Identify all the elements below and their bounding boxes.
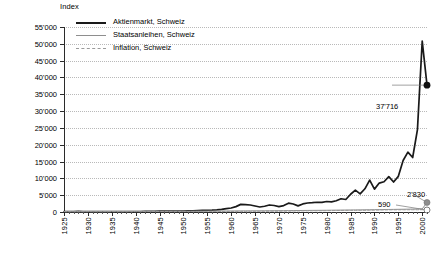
x-tick-label: 1980 <box>323 217 332 235</box>
x-tick-label: 1925 <box>60 217 69 235</box>
x-tick-mark-minor <box>308 212 309 214</box>
x-tick-mark-minor <box>394 212 395 214</box>
x-tick-mark-minor <box>126 212 127 214</box>
x-tick-mark-minor <box>298 212 299 214</box>
legend-label-aktienmarkt: Aktienmarkt, Schweiz <box>113 17 185 26</box>
legend-swatch-inflation <box>76 43 106 52</box>
x-tick-label: 1985 <box>347 217 356 235</box>
x-tick-label: 1990 <box>370 217 379 235</box>
end-marker-aktienmarkt <box>424 82 431 89</box>
x-tick-mark-minor <box>260 212 261 214</box>
x-tick-label: 1930 <box>84 217 93 235</box>
x-tick-mark-minor <box>365 212 366 214</box>
y-tick-mark <box>60 77 64 78</box>
x-tick-mark-minor <box>236 212 237 214</box>
x-tick-mark-minor <box>355 212 356 214</box>
x-tick-mark-minor <box>427 212 428 214</box>
x-tick-mark-minor <box>217 212 218 214</box>
data-label-staatsanleihen: 2'830 <box>407 190 425 199</box>
data-label-aktienmarkt: 37'716 <box>376 102 398 111</box>
x-tick-mark-minor <box>121 212 122 214</box>
x-tick-mark-minor <box>403 212 404 214</box>
x-tick-mark <box>351 212 352 216</box>
legend-swatch-aktienmarkt <box>76 17 106 26</box>
chart-legend: Aktienmarkt, Schweiz Staatsanleihen, Sch… <box>76 15 246 54</box>
legend-label-inflation: Inflation, Schweiz <box>113 43 171 52</box>
x-tick-mark-minor <box>193 212 194 214</box>
x-tick-mark <box>279 212 280 216</box>
x-tick-mark-minor <box>155 212 156 214</box>
x-tick-mark-minor <box>188 212 189 214</box>
y-tick-mark <box>60 162 64 163</box>
x-tick-mark-minor <box>341 212 342 214</box>
legend-item-inflation: Inflation, Schweiz <box>76 41 246 54</box>
x-tick-mark-minor <box>97 212 98 214</box>
x-tick-mark-minor <box>346 212 347 214</box>
x-tick-mark-minor <box>288 212 289 214</box>
x-tick-mark <box>136 212 137 216</box>
x-tick-mark-minor <box>389 212 390 214</box>
x-tick-mark-minor <box>317 212 318 214</box>
y-tick-mark <box>60 145 64 146</box>
x-tick-mark-minor <box>102 212 103 214</box>
legend-label-staatsanleihen: Staatsanleihen, Schweiz <box>113 30 195 39</box>
y-tick-mark <box>60 178 64 179</box>
x-tick-mark <box>374 212 375 216</box>
x-tick-mark-minor <box>107 212 108 214</box>
y-tick-mark <box>60 195 64 196</box>
x-tick-mark-minor <box>226 212 227 214</box>
end-marker-staatsanleihen <box>424 199 430 205</box>
y-tick-mark <box>60 27 64 28</box>
x-tick-mark-minor <box>284 212 285 214</box>
y-tick-mark <box>60 94 64 95</box>
x-tick-mark <box>64 212 65 216</box>
x-tick-mark-minor <box>336 212 337 214</box>
x-tick-label: 1945 <box>156 217 165 235</box>
legend-item-staatsanleihen: Staatsanleihen, Schweiz <box>76 28 246 41</box>
legend-swatch-staatsanleihen <box>76 30 106 39</box>
x-tick-label: 1935 <box>108 217 117 235</box>
x-tick-mark-minor <box>203 212 204 214</box>
x-tick-mark-minor <box>246 212 247 214</box>
x-tick-mark-minor <box>413 212 414 214</box>
x-tick-mark-minor <box>169 212 170 214</box>
x-tick-mark-minor <box>312 212 313 214</box>
x-tick-mark-minor <box>174 212 175 214</box>
chart-container: Index 05'00010'00015'00020'00025'00030'0… <box>0 0 441 253</box>
x-tick-mark-minor <box>74 212 75 214</box>
x-tick-label: 1970 <box>275 217 284 235</box>
x-tick-mark-minor <box>322 212 323 214</box>
x-tick-label: 1960 <box>227 217 236 235</box>
x-tick-label: 1955 <box>203 217 212 235</box>
x-tick-mark <box>183 212 184 216</box>
y-tick-mark <box>60 111 64 112</box>
x-tick-mark-minor <box>265 212 266 214</box>
x-tick-mark-minor <box>384 212 385 214</box>
x-tick-mark-minor <box>408 212 409 214</box>
x-tick-mark <box>231 212 232 216</box>
x-tick-mark-minor <box>140 212 141 214</box>
x-tick-mark-minor <box>222 212 223 214</box>
x-tick-mark <box>88 212 89 216</box>
x-tick-mark-minor <box>150 212 151 214</box>
x-tick-mark-minor <box>164 212 165 214</box>
x-tick-mark-minor <box>331 212 332 214</box>
x-tick-mark-minor <box>78 212 79 214</box>
x-tick-label: 1950 <box>179 217 188 235</box>
x-tick-mark <box>207 212 208 216</box>
x-tick-label: 1940 <box>132 217 141 235</box>
x-tick-mark-minor <box>269 212 270 214</box>
x-tick-mark-minor <box>83 212 84 214</box>
x-tick-label: 1965 <box>251 217 260 235</box>
x-tick-mark-minor <box>145 212 146 214</box>
y-tick-mark <box>60 128 64 129</box>
x-tick-mark-minor <box>417 212 418 214</box>
legend-item-aktienmarkt: Aktienmarkt, Schweiz <box>76 15 246 28</box>
x-tick-mark-minor <box>69 212 70 214</box>
x-tick-mark-minor <box>241 212 242 214</box>
data-label-inflation: 590 <box>378 200 391 209</box>
x-tick-mark-minor <box>117 212 118 214</box>
x-tick-mark-minor <box>93 212 94 214</box>
series-line-aktienmarkt <box>64 41 427 212</box>
x-tick-label: 1995 <box>394 217 403 235</box>
